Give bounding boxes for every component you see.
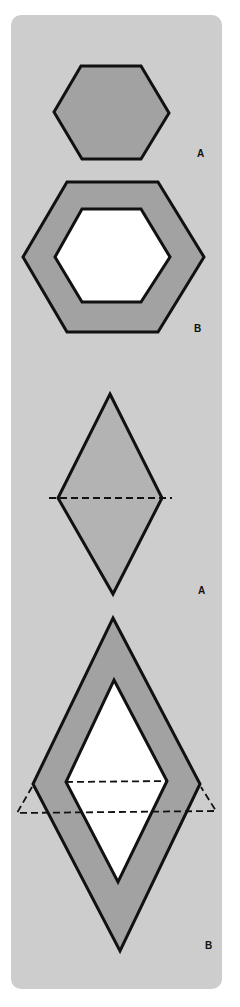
label-hexagon-b: B: [194, 323, 201, 334]
diagram-board: A B A B: [0, 0, 240, 1007]
label-hexagon-a: A: [197, 148, 204, 159]
label-rhombus-a: A: [198, 585, 205, 596]
label-rhombus-b: B: [205, 940, 212, 951]
